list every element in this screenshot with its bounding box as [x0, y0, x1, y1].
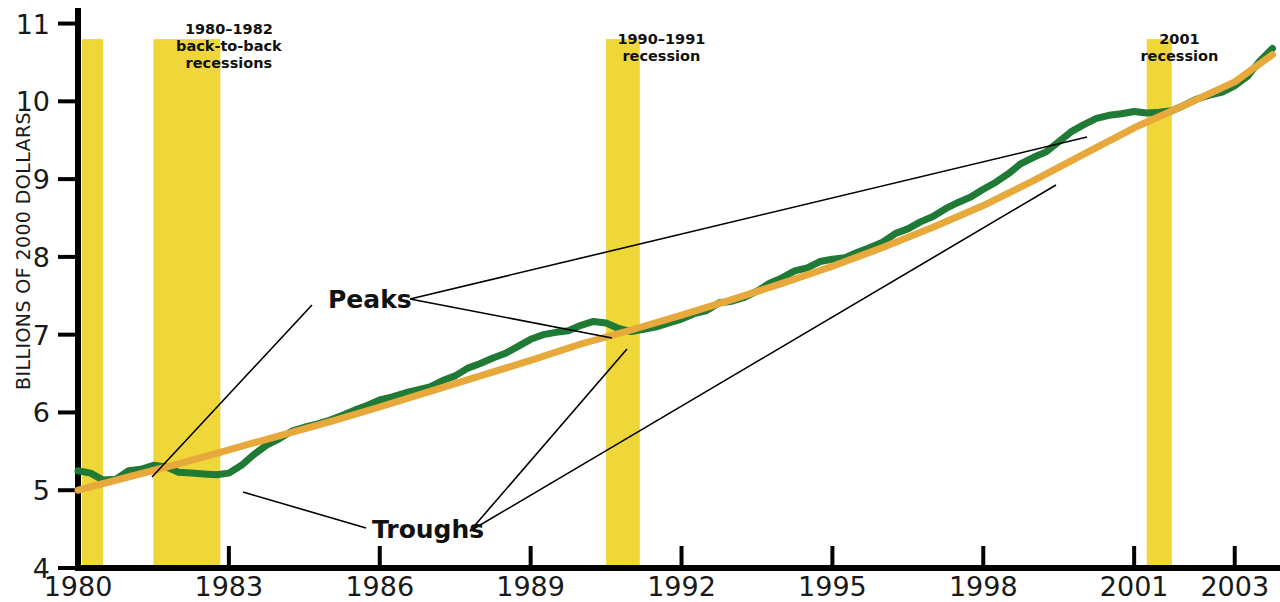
- callout-label-peaks: Peaks: [328, 285, 412, 314]
- y-tick-label: 5: [33, 475, 50, 506]
- label-1980-1982-line: back-to-back: [176, 38, 282, 54]
- label-1990-1991-line: recession: [622, 48, 700, 64]
- y-tick-label: 9: [33, 164, 50, 195]
- y-tick-label: 7: [33, 320, 50, 351]
- x-tick-label: 1986: [345, 571, 414, 602]
- callout-label-troughs: Troughs: [372, 515, 484, 544]
- label-1980-1982: 1980–1982back-to-backrecessions: [176, 21, 282, 71]
- label-2001-line: recession: [1140, 48, 1218, 64]
- y-tick-label: 8: [33, 242, 50, 273]
- x-tick-label: 1995: [798, 571, 867, 602]
- label-2001-line: 2001: [1159, 31, 1199, 47]
- y-axis-title: BILLIONS OF 2000 DOLLARS: [12, 112, 34, 390]
- recession-1990-1991: [606, 39, 640, 568]
- x-tick-label: 1998: [949, 571, 1018, 602]
- chart-figure: 4567891011 19801983198619891992199519982…: [0, 0, 1280, 602]
- gdp-line-chart: 4567891011 19801983198619891992199519982…: [0, 0, 1280, 602]
- label-1980-1982-line: recessions: [186, 55, 273, 71]
- label-1980-1982-line: 1980–1982: [185, 21, 273, 37]
- x-tick-label: 1992: [647, 571, 716, 602]
- x-tick-label: 2003: [1200, 571, 1269, 602]
- x-tick-label: 1989: [496, 571, 565, 602]
- x-tick-label: 1983: [195, 571, 264, 602]
- x-tick-label: 1980: [44, 571, 113, 602]
- recession-1981-1982: [153, 39, 220, 568]
- x-tick-label: 2001: [1100, 571, 1169, 602]
- y-tick-label: 6: [33, 397, 50, 428]
- label-1990-1991-line: 1990–1991: [617, 31, 705, 47]
- y-tick-label: 11: [16, 9, 50, 40]
- label-1990-1991: 1990–1991recession: [617, 31, 705, 64]
